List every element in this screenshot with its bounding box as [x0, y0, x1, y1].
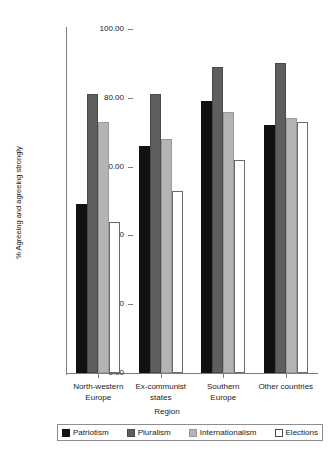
y-axis-title: % Agreeing and agreeing strongly: [14, 123, 23, 283]
bar: [76, 204, 87, 373]
x-tick-mark: [161, 373, 162, 378]
x-tick-label: Other countries: [248, 381, 324, 392]
legend-item[interactable]: Patriotism: [62, 428, 109, 437]
x-axis-title: Region: [0, 407, 334, 416]
bar-group: [192, 29, 255, 373]
bar: [98, 122, 109, 373]
bar: [275, 63, 286, 373]
y-tick-mark: [128, 373, 133, 374]
bar-chart: % Agreeing and agreeing strongly 0.0020.…: [0, 0, 334, 456]
legend-item[interactable]: Internationalism: [189, 428, 256, 437]
legend-item[interactable]: Elections: [275, 428, 318, 437]
bar: [172, 191, 183, 373]
bar: [201, 101, 212, 373]
x-tick-mark: [223, 373, 224, 378]
bar-group: [255, 29, 318, 373]
legend-label: Patriotism: [73, 428, 109, 437]
bar-groups: [67, 29, 317, 373]
bar: [234, 160, 245, 373]
bar: [297, 122, 308, 373]
legend-label: Pluralism: [138, 428, 171, 437]
bar: [264, 125, 275, 373]
legend-swatch-icon: [189, 429, 197, 437]
legend-swatch-icon: [275, 429, 283, 437]
bar-group: [130, 29, 193, 373]
bar: [109, 222, 120, 373]
bar: [150, 94, 161, 373]
legend-item[interactable]: Pluralism: [127, 428, 171, 437]
bar-group: [67, 29, 130, 373]
bar: [139, 146, 150, 373]
legend-label: Elections: [286, 428, 318, 437]
bar: [223, 112, 234, 373]
bar: [87, 94, 98, 373]
y-tick: 0.00: [67, 373, 133, 374]
bar: [161, 139, 172, 373]
legend-swatch-icon: [127, 429, 135, 437]
plot-area: 0.0020.0040.0060.0080.00100.00: [67, 29, 317, 373]
legend-label: Internationalism: [200, 428, 256, 437]
chart-legend: PatriotismPluralismInternationalismElect…: [57, 424, 323, 441]
bar: [286, 118, 297, 373]
x-tick-mark: [98, 373, 99, 378]
legend-swatch-icon: [62, 429, 70, 437]
x-tick-mark: [286, 373, 287, 378]
bar: [212, 67, 223, 373]
